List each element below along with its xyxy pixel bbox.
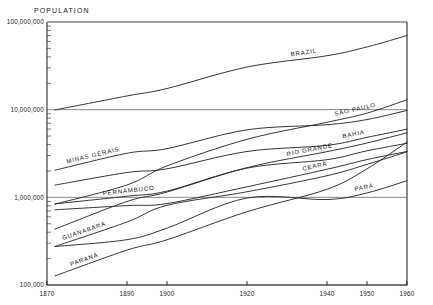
y-tick-label: 100,000,000 <box>7 18 45 25</box>
series-label-bahia: BAHIA <box>342 129 365 139</box>
x-tick-label: 1950 <box>359 290 374 297</box>
series-line-brazil <box>55 36 407 110</box>
y-tick-labels: 100,000,00010,000,0001,000,000100,000 <box>7 18 45 288</box>
series-line-rio-grande-do-sul <box>55 133 407 229</box>
y-tick-label: 1,000,000 <box>14 194 44 201</box>
tick-marks <box>47 281 407 285</box>
x-tick-label: 1900 <box>159 290 174 297</box>
series-lines <box>55 36 407 276</box>
x-tick-label: 1870 <box>39 290 54 297</box>
population-chart: 100,000,00010,000,0001,000,000100,000 18… <box>0 0 433 305</box>
series-label-brazil: BRAZIL <box>290 48 317 58</box>
series-label-minas-gerais: MINAS GERAIS <box>66 146 120 164</box>
chart-canvas: 100,000,00010,000,0001,000,000100,000 18… <box>0 0 433 305</box>
series-label-para: PARÁ <box>354 182 374 192</box>
chart-title: POPULATION <box>34 7 90 14</box>
series-line-ceara <box>55 151 407 209</box>
y-tick-label: 100,000 <box>20 281 44 288</box>
x-tick-label: 1940 <box>319 290 334 297</box>
x-tick-label: 1920 <box>239 290 254 297</box>
minor-ticks <box>47 26 51 259</box>
y-tick-label: 10,000,000 <box>10 106 44 113</box>
series-line-guanabara <box>55 152 407 247</box>
x-tick-labels: 1870189019001920194019501960 <box>39 290 414 297</box>
x-tick-label: 1960 <box>399 290 414 297</box>
x-tick-label: 1890 <box>119 290 134 297</box>
